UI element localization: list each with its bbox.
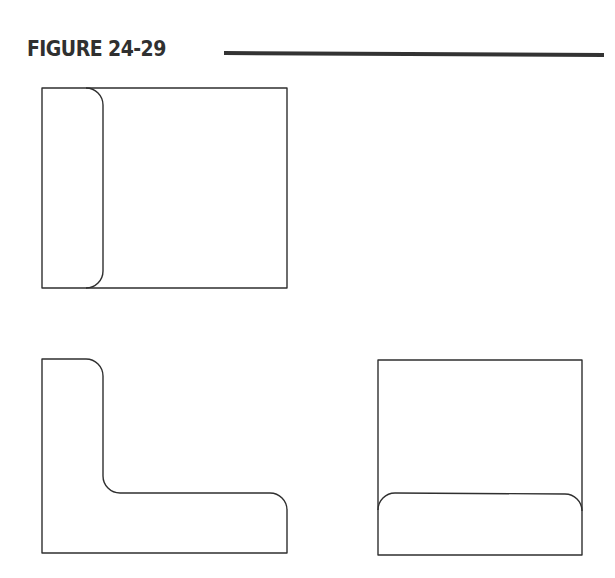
front-view	[42, 359, 287, 553]
orthographic-drawing	[0, 0, 615, 578]
side-view-outline	[378, 360, 582, 555]
top-view-outline	[42, 88, 287, 288]
side-view	[378, 360, 582, 555]
side-view-rounded-edge	[378, 493, 582, 511]
header-rule	[224, 53, 604, 55]
front-view-outline	[42, 359, 287, 553]
top-view-rounded-edge	[86, 88, 103, 288]
top-view	[42, 88, 287, 288]
